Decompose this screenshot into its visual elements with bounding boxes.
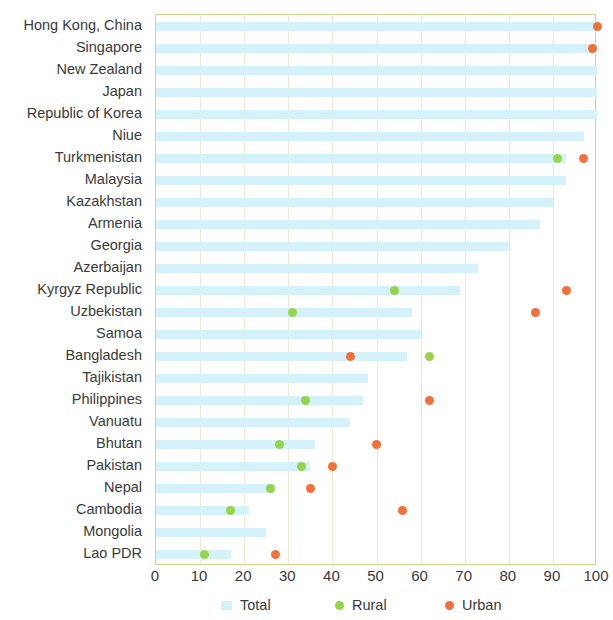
category-label: Kazakhstan <box>0 194 142 209</box>
x-tick-label: 100 <box>583 568 608 583</box>
total-bar <box>156 440 315 449</box>
total-bar <box>156 88 597 97</box>
category-label: Azerbaijan <box>0 260 142 275</box>
category-label: Bhutan <box>0 436 142 451</box>
urban-marker <box>372 440 381 449</box>
plot-area <box>155 14 596 565</box>
total-bar <box>156 352 407 361</box>
category-label: Mongolia <box>0 524 142 539</box>
chart-row <box>156 456 597 478</box>
category-label: Hong Kong, China <box>0 18 142 33</box>
total-bar <box>156 528 266 537</box>
total-bar <box>156 374 368 383</box>
chart-row <box>156 37 597 59</box>
legend-item-urban[interactable]: Urban <box>445 597 502 613</box>
legend-label: Total <box>240 597 271 613</box>
legend-swatch-rural-icon <box>335 601 344 610</box>
total-bar <box>156 550 231 559</box>
legend-item-total[interactable]: Total <box>221 597 271 613</box>
legend-swatch-total-icon <box>221 601 232 610</box>
legend-item-rural[interactable]: Rural <box>335 597 387 613</box>
total-bar <box>156 264 478 273</box>
urban-marker <box>531 308 540 317</box>
chart-row <box>156 147 597 169</box>
category-label: New Zealand <box>0 62 142 77</box>
x-tick-label: 80 <box>499 568 516 583</box>
legend-label: Urban <box>462 597 502 613</box>
total-bar <box>156 220 540 229</box>
chart-row <box>156 235 597 257</box>
total-bar <box>156 484 275 493</box>
category-label: Cambodia <box>0 502 142 517</box>
urban-marker <box>346 352 355 361</box>
x-tick-label: 30 <box>279 568 296 583</box>
chart-row <box>156 434 597 456</box>
legend-swatch-urban-icon <box>445 601 454 610</box>
chart-row <box>156 213 597 235</box>
total-bar <box>156 462 310 471</box>
chart-row <box>156 257 597 279</box>
total-bar <box>156 286 460 295</box>
category-label: Georgia <box>0 238 142 253</box>
chart-row <box>156 500 597 522</box>
chart-row <box>156 125 597 147</box>
urban-marker <box>398 506 407 515</box>
chart-legend: TotalRuralUrban <box>155 594 596 616</box>
total-bar <box>156 44 597 53</box>
total-bar <box>156 22 597 31</box>
rural-marker <box>553 154 562 163</box>
x-tick-label: 60 <box>411 568 428 583</box>
chart-row <box>156 522 597 544</box>
category-label: Singapore <box>0 40 142 55</box>
category-label: Philippines <box>0 392 142 407</box>
total-bar <box>156 176 566 185</box>
chart-row <box>156 103 597 125</box>
category-label: Samoa <box>0 326 142 341</box>
category-label: Republic of Korea <box>0 106 142 121</box>
x-tick-label: 20 <box>235 568 252 583</box>
total-bar <box>156 110 597 119</box>
x-tick-label: 90 <box>544 568 561 583</box>
chart-row <box>156 412 597 434</box>
urban-marker <box>579 154 588 163</box>
category-label: Vanuatu <box>0 414 142 429</box>
x-tick-label: 10 <box>191 568 208 583</box>
category-label: Niue <box>0 128 142 143</box>
chart-row <box>156 346 597 368</box>
value-axis-ticks: 0102030405060708090100 <box>155 566 596 590</box>
total-bar <box>156 198 553 207</box>
chart-row <box>156 81 597 103</box>
chart-row <box>156 324 597 346</box>
category-label: Pakistan <box>0 458 142 473</box>
category-label: Bangladesh <box>0 348 142 363</box>
category-label: Turkmenistan <box>0 150 142 165</box>
total-bar <box>156 308 412 317</box>
urban-marker <box>562 286 571 295</box>
category-label: Lao PDR <box>0 546 142 561</box>
chart-row <box>156 15 597 37</box>
rural-marker <box>390 286 399 295</box>
urban-marker <box>425 396 434 405</box>
total-bar <box>156 396 363 405</box>
urban-marker <box>593 22 602 31</box>
total-bar <box>156 66 597 75</box>
category-axis-labels: Hong Kong, ChinaSingaporeNew ZealandJapa… <box>0 14 150 565</box>
chart-row <box>156 191 597 213</box>
chart-row <box>156 59 597 81</box>
category-label: Kyrgyz Republic <box>0 282 142 297</box>
category-label: Japan <box>0 84 142 99</box>
x-tick-label: 70 <box>455 568 472 583</box>
chart-row <box>156 368 597 390</box>
urban-marker <box>328 462 337 471</box>
category-label: Malaysia <box>0 172 142 187</box>
total-bar <box>156 242 509 251</box>
urban-marker <box>306 484 315 493</box>
urban-marker <box>588 44 597 53</box>
rural-marker <box>425 352 434 361</box>
chart-row <box>156 390 597 412</box>
category-label: Nepal <box>0 480 142 495</box>
chart-row <box>156 279 597 301</box>
category-label: Uzbekistan <box>0 304 142 319</box>
x-tick-label: 0 <box>151 568 159 583</box>
x-tick-label: 50 <box>367 568 384 583</box>
